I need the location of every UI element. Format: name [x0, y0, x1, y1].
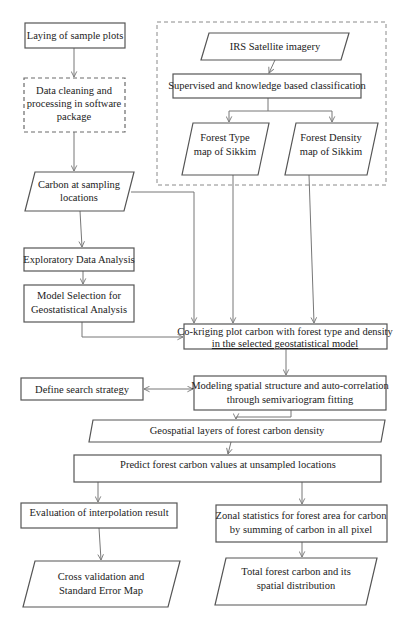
node-label: through semivariogram fitting: [227, 394, 354, 405]
node-carbon-at-sampling-locations: Carbon at sampling locations: [25, 172, 134, 211]
node-forest-density-map: Forest Density map of Sikkim: [285, 123, 378, 175]
node-model-selection: Model Selection for Geostatistical Analy…: [24, 285, 134, 322]
edge-carbon-sampling-to-eda: [80, 211, 82, 247]
node-geospatial-layers: Geospatial layers of forest carbon densi…: [89, 420, 385, 442]
node-exploratory-data-analysis: Exploratory Data Analysis: [23, 248, 134, 271]
nodes: Laying of sample plots Data cleaning and…: [21, 23, 393, 607]
node-label: package: [57, 111, 92, 122]
node-label: Geostatistical Analysis: [31, 304, 127, 315]
node-label: Standard Error Map: [59, 585, 143, 596]
edge-model-selection-to-cokriging: [82, 322, 183, 337]
node-data-cleaning: Data cleaning and processing in software…: [24, 78, 125, 132]
node-label: processing in software: [27, 98, 122, 109]
node-zonal-statistics: Zonal statistics for forest area for car…: [216, 505, 388, 542]
node-classification: Supervised and knowledge based classific…: [168, 74, 366, 98]
node-label: Model Selection for: [37, 290, 121, 301]
node-label: Geospatial layers of forest carbon densi…: [150, 425, 325, 436]
node-label: Exploratory Data Analysis: [23, 254, 134, 265]
edge-geospatial-to-predict: [228, 442, 231, 454]
node-label: by summing of carbon in all pixel: [230, 524, 372, 535]
node-label: in the selected geostatistical model: [212, 338, 358, 349]
node-label: Cross validation and: [58, 571, 145, 582]
edge-irs-to-classification: [269, 60, 275, 73]
node-co-kriging: Co-kriging plot carbon with forest type …: [177, 324, 393, 349]
node-label: Forest Type: [200, 132, 250, 143]
node-evaluation-of-interpolation: Evaluation of interpolation result: [21, 503, 177, 528]
node-label: Evaluation of interpolation result: [29, 507, 168, 518]
edge-classification-to-density: [268, 111, 332, 122]
node-label: spatial distribution: [257, 580, 336, 591]
node-label: Define search strategy: [35, 384, 130, 395]
node-label: Data cleaning and: [36, 85, 113, 96]
edge-carbon-sampling-to-cokriging: [131, 192, 194, 323]
node-define-search-strategy: Define search strategy: [21, 378, 143, 400]
node-irs-satellite-imagery: IRS Satellite imagery: [201, 33, 349, 60]
node-label: Zonal statistics for forest area for car…: [216, 510, 388, 521]
edge-forest-density-to-cokriging: [309, 175, 314, 323]
node-modeling-spatial-structure: Modeling spatial structure and auto-corr…: [191, 376, 389, 410]
edge-evaluation-to-cross-validation: [99, 528, 101, 560]
node-label: Carbon at sampling: [38, 179, 121, 190]
node-label: map of Sikkim: [194, 146, 256, 157]
data-parallelogram: [23, 561, 180, 607]
node-predict-forest-carbon: Predict forest carbon values at unsample…: [74, 455, 381, 482]
edge-classification-split: [229, 98, 268, 122]
node-forest-type-map: Forest Type map of Sikkim: [182, 123, 269, 175]
node-label: Predict forest carbon values at unsample…: [120, 459, 336, 470]
node-label: Modeling spatial structure and auto-corr…: [191, 380, 389, 391]
node-label: IRS Satellite imagery: [230, 41, 321, 52]
node-total-forest-carbon: Total forest carbon and its spatial dist…: [215, 558, 377, 605]
node-label: Supervised and knowledge based classific…: [168, 80, 366, 91]
node-label: Forest Density: [300, 132, 362, 143]
node-label: Laying of sample plots: [27, 30, 124, 41]
node-label: locations: [60, 192, 98, 203]
flowchart-diagram: Laying of sample plots Data cleaning and…: [0, 0, 406, 624]
node-cross-validation: Cross validation and Standard Error Map: [23, 561, 180, 607]
edge-modeling-to-geospatial: [236, 410, 291, 419]
node-label: map of Sikkim: [300, 146, 362, 157]
node-label: Total forest carbon and its: [241, 566, 350, 577]
node-laying-of-sample-plots: Laying of sample plots: [25, 23, 125, 48]
node-label: Co-kriging plot carbon with forest type …: [177, 326, 393, 337]
